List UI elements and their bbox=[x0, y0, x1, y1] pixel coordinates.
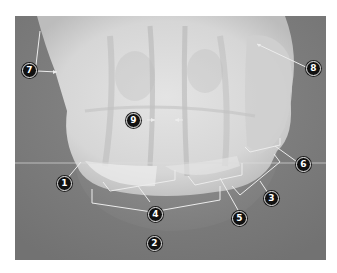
callout-4: 4 bbox=[148, 207, 163, 222]
radiograph-image bbox=[15, 16, 326, 260]
callout-7: 7 bbox=[22, 63, 37, 78]
xray-graphic bbox=[15, 16, 326, 260]
callout-1: 1 bbox=[57, 176, 72, 191]
callout-3: 3 bbox=[264, 191, 279, 206]
callout-5: 5 bbox=[232, 211, 247, 226]
callout-8: 8 bbox=[306, 61, 321, 76]
callout-9: 9 bbox=[126, 113, 141, 128]
callout-2: 2 bbox=[147, 236, 162, 251]
callout-6: 6 bbox=[296, 157, 311, 172]
